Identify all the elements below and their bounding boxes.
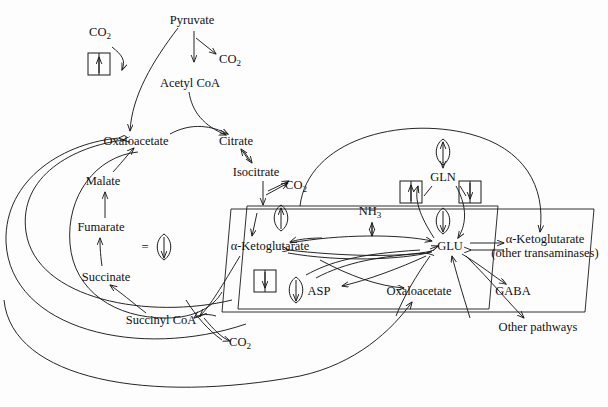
- node-succinyl-coa: Succinyl CoA: [126, 313, 196, 327]
- node-citrate: Citrate: [219, 134, 253, 148]
- node-pyruvate: Pyruvate: [170, 13, 214, 27]
- node-gln: GLN: [430, 170, 456, 184]
- pathway-diagram: CO2 Pyruvate CO2 Acetyl CoA Oxaloacetate…: [0, 0, 608, 407]
- node-alpha-ketoglutarate: α-Ketoglutarate: [231, 239, 310, 253]
- node-co2-isocitrate: CO2: [285, 178, 307, 194]
- oval-down-arrow-icon-glu: [436, 208, 450, 234]
- node-glu: GLU: [437, 239, 463, 253]
- node-succinate: Succinate: [82, 270, 131, 284]
- node-co2-pyruvate: CO2: [219, 52, 241, 68]
- node-gaba: GABA: [495, 284, 530, 298]
- node-oxaloacetate-cyt: Oxaloacetate: [386, 284, 451, 298]
- legend-equals: =: [141, 240, 148, 254]
- node-co2-top: CO2: [89, 25, 111, 41]
- oval-down-arrow-icon-legend: [157, 234, 171, 260]
- node-fumarate: Fumarate: [77, 220, 124, 234]
- node-asp: ASP: [308, 284, 331, 298]
- oval-arrow-icons: [0, 0, 608, 407]
- oval-down-arrow-icon-asp: [289, 277, 303, 303]
- node-co2-succinyl: CO2: [229, 335, 251, 351]
- node-oxaloacetate-mito: Oxaloacetate: [103, 134, 168, 148]
- node-alpha-ketoglutarate-transaminases: α-Ketoglutarate(other transaminases): [484, 232, 606, 260]
- oval-up-arrow-icon-gln: [436, 139, 450, 165]
- node-acetyl-coa: Acetyl CoA: [160, 76, 220, 90]
- node-other-pathways: Other pathways: [499, 320, 578, 334]
- node-nh3: NH3: [359, 204, 382, 220]
- node-malate: Malate: [86, 174, 121, 188]
- oval-up-arrow-icon-akg: [274, 205, 288, 231]
- node-isocitrate: Isocitrate: [233, 165, 280, 179]
